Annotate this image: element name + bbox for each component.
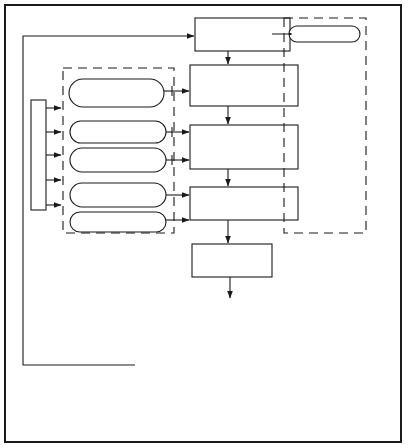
left-training-arrows bbox=[46, 108, 61, 205]
qc-improvement-flow-diagram bbox=[0, 0, 412, 448]
left-tool-experience bbox=[0, 0, 164, 107]
main-box-identify bbox=[0, 0, 290, 51]
left-training-education-box bbox=[31, 100, 46, 210]
left-tool-cause-effect-1 bbox=[0, 0, 166, 143]
